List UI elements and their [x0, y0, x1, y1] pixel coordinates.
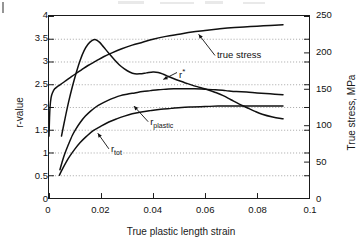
y-axis-right-tick-label: 0 [316, 194, 321, 204]
y-axis-left-tick-label: 0 [0, 194, 48, 204]
annotation-label-true-stress: true stress [217, 49, 261, 60]
y-axis-left-tick-label: 2.5 [0, 79, 48, 89]
y-axis-right-tick-label: 200 [316, 47, 332, 57]
y-axis-right-tick-label: 150 [316, 84, 332, 94]
annotation-label-r-star: r* [179, 67, 185, 80]
y-axis-right-tick-label: 50 [316, 157, 327, 167]
y-axis-left-tick-label: 3 [0, 56, 48, 66]
x-axis-tick-label: 0.02 [91, 205, 110, 215]
x-axis-title: True plastic length strain [0, 226, 362, 237]
scan-artifact-smudge-b [160, 2, 194, 4]
annotation-label-r-tot: rtot [111, 143, 122, 156]
series-curve-r-plastic [60, 89, 283, 170]
figure-chart-true-stress-r-value: r-value True stress, MPa True plastic le… [0, 0, 362, 246]
y-axis-right-tick-label: 100 [316, 120, 332, 130]
y-axis-right-tick-label: 250 [316, 10, 332, 20]
x-axis-tick-label: 0.08 [248, 205, 267, 215]
scan-artifact-smudge-d [243, 2, 265, 4]
y-axis-left-tick-label: 3.5 [0, 33, 48, 43]
annotation-label-r-plastic: rplastic [150, 116, 173, 129]
scan-artifact-smudge-c [205, 1, 223, 4]
plot-area [48, 15, 310, 199]
y-axis-left-tick-label: 0.5 [0, 171, 48, 181]
y-axis-left-tick-label: 4 [0, 10, 48, 20]
y-axis-left-tick-label: 1.5 [0, 125, 48, 135]
x-axis-tick-label: 0.04 [144, 205, 163, 215]
y-axis-right-title: True stress, MPa [346, 53, 357, 173]
x-axis-tick-label: 0.1 [303, 205, 316, 215]
data-curves-layer [49, 16, 309, 198]
x-axis-tick-label: 0.06 [196, 205, 215, 215]
y-axis-left-tick-label: 2 [0, 102, 48, 112]
scan-artifact-smudge-a [118, 1, 144, 4]
x-axis-tick-label: 0 [45, 205, 50, 215]
y-axis-left-tick-label: 1 [0, 148, 48, 158]
